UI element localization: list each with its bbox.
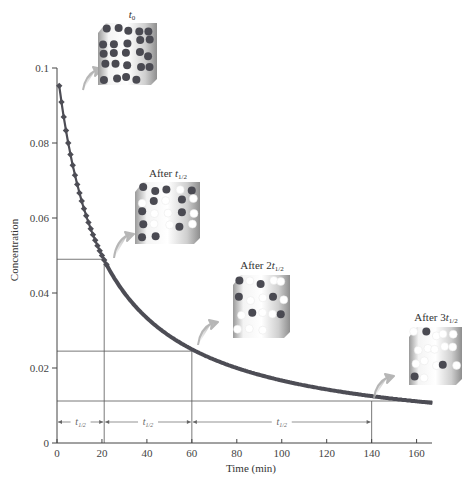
x-tick-label: 0	[54, 447, 60, 459]
half-life-interval-label: t1/2	[75, 416, 85, 428]
product-molecule	[449, 330, 457, 338]
reactant-molecule	[113, 74, 121, 82]
y-tick-label: 0.06	[30, 212, 50, 224]
reactant-molecule	[178, 208, 186, 216]
data-point-marker	[90, 231, 96, 237]
product-molecule	[138, 199, 146, 207]
data-point-marker	[76, 190, 82, 196]
product-molecule	[189, 195, 197, 203]
y-tick-label: 0.1	[35, 62, 49, 74]
product-molecule	[166, 221, 174, 229]
y-axis-title: Concentration	[8, 218, 20, 281]
x-tick-label: 20	[96, 447, 108, 459]
reactant-molecule	[277, 310, 285, 318]
reactant-molecule	[138, 233, 146, 241]
product-molecule	[176, 186, 184, 194]
product-molecule	[420, 357, 428, 365]
arrowhead-left-icon	[193, 420, 197, 424]
concentration-curve	[59, 86, 432, 403]
x-tick-label: 160	[408, 447, 425, 459]
data-point-marker	[72, 172, 78, 178]
x-tick-label: 60	[186, 447, 198, 459]
data-point-marker	[74, 181, 80, 187]
reactant-molecule	[136, 48, 144, 56]
reactant-molecule	[188, 186, 196, 194]
product-molecule	[412, 360, 420, 368]
x-tick-label: 100	[274, 447, 291, 459]
reactant-molecule	[422, 328, 430, 336]
data-point-marker	[58, 99, 64, 105]
y-tick-label: 0.08	[30, 137, 50, 149]
product-molecule	[188, 220, 196, 228]
reactant-molecule	[115, 24, 123, 32]
reactant-molecule	[137, 63, 145, 71]
data-point-marker	[67, 151, 73, 157]
axes: 02040608010012014016000.020.040.060.080.…	[30, 62, 432, 459]
panel-label: t0	[129, 8, 136, 22]
y-tick-label: 0.02	[30, 362, 49, 374]
data-point-marker	[63, 127, 69, 133]
product-molecule	[410, 328, 418, 336]
product-molecule	[268, 310, 276, 318]
product-molecule	[439, 330, 447, 338]
data-point-marker	[65, 140, 71, 146]
x-tick-label: 120	[318, 447, 335, 459]
molecule-panel-2: After 2t1/2	[198, 259, 290, 345]
curved-arrow-icon	[114, 232, 134, 258]
reactant-molecule	[138, 207, 146, 215]
x-tick-label: 40	[141, 447, 153, 459]
reactant-molecule	[411, 373, 419, 381]
product-molecule	[277, 277, 285, 285]
reactant-molecule	[235, 277, 243, 285]
reactant-molecule	[257, 280, 265, 288]
reactant-molecule	[152, 232, 160, 240]
product-molecule	[259, 294, 267, 302]
reactant-molecule	[136, 36, 144, 44]
reactant-molecule	[146, 63, 154, 71]
arrowhead-right-icon	[99, 420, 103, 424]
curved-arrow-icon	[374, 374, 394, 398]
panel-label: After t1/2	[149, 167, 187, 181]
reactant-molecule	[162, 186, 170, 194]
data-point-marker	[79, 198, 85, 204]
reactant-molecule	[122, 49, 130, 57]
x-axis-title: Time (min)	[226, 462, 276, 475]
arrowhead-right-icon	[187, 420, 191, 424]
data-point-marker	[61, 114, 67, 120]
molecule-panel-3: After 3t1/2	[374, 311, 462, 398]
product-molecule	[420, 374, 428, 382]
arrowhead-left-icon	[105, 420, 109, 424]
reactant-molecule	[122, 73, 130, 81]
panel-label: After 2t1/2	[240, 259, 284, 273]
product-molecule	[259, 309, 267, 317]
product-molecule	[270, 277, 278, 285]
reactant-molecule	[439, 361, 447, 369]
reactant-molecule	[135, 28, 143, 36]
reactant-molecule	[175, 223, 183, 231]
product-molecule	[453, 361, 461, 369]
molecule-panel-1: After t1/2	[114, 167, 200, 258]
panel-label: After 3t1/2	[414, 311, 458, 325]
reactant-molecule	[144, 52, 152, 60]
reactant-molecule	[112, 60, 120, 68]
molecule-panels: t0After t1/2After 2t1/2After 3t1/2	[83, 8, 462, 398]
product-molecule	[441, 343, 449, 351]
curved-arrow-icon	[198, 320, 218, 345]
y-tick-label: 0	[44, 437, 50, 449]
product-molecule	[245, 325, 253, 333]
reactant-molecule	[146, 36, 154, 44]
product-molecule	[190, 209, 198, 217]
product-molecule	[162, 197, 170, 205]
data-point-marker	[88, 226, 94, 232]
reactant-molecule	[178, 195, 186, 203]
data-point-marker	[81, 205, 87, 211]
reactant-molecule	[123, 39, 131, 47]
product-molecule	[259, 326, 267, 334]
reactant-molecule	[110, 49, 118, 57]
x-tick-label: 140	[363, 447, 380, 459]
half-life-interval-label: t1/2	[143, 416, 153, 428]
product-molecule	[449, 343, 457, 351]
product-molecule	[431, 345, 439, 353]
product-molecule	[247, 297, 255, 305]
concentration-vs-time-chart: t1/2t1/2t1/2 02040608010012014016000.020…	[0, 0, 476, 482]
